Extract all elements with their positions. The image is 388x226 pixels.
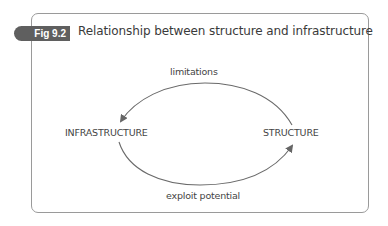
node-structure: STRUCTURE [263,127,319,138]
edge-label-limitations: limitations [170,66,218,77]
exploit-potential-arrow [119,142,292,185]
limitations-arrow [121,83,292,125]
edge-label-exploit-potential: exploit potential [166,190,240,201]
node-infrastructure: INFRASTRUCTURE [65,127,148,138]
